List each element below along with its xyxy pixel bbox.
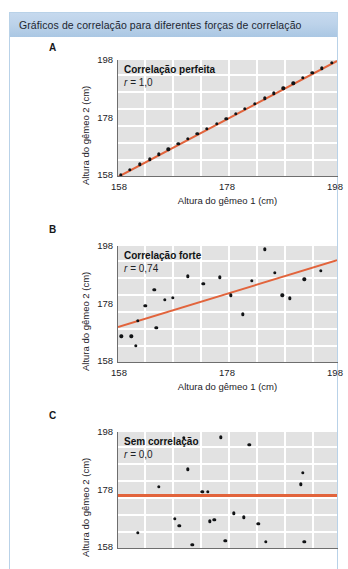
panel-a-r-value: = 1,0 bbox=[130, 77, 153, 88]
panel-b-x-tick-158: 158 bbox=[107, 367, 131, 378]
figure-title-band: Gráficos de correlação para diferentes f… bbox=[10, 13, 337, 37]
panel-a-x-tick-198: 198 bbox=[323, 181, 347, 192]
panel-b-letter: B bbox=[49, 224, 56, 235]
panel-b-x-tick-178: 178 bbox=[215, 367, 239, 378]
data-point bbox=[241, 312, 244, 315]
data-point bbox=[186, 467, 189, 470]
panel-a-x-tick-158: 158 bbox=[107, 181, 131, 192]
panel-c-letter: C bbox=[49, 410, 56, 421]
data-point bbox=[288, 296, 291, 299]
data-point bbox=[120, 335, 123, 338]
panel-a-y-axis-line bbox=[117, 60, 118, 177]
panel-a-letter: A bbox=[49, 42, 56, 53]
panel-b-plot-title: Correlação forte bbox=[124, 250, 201, 261]
data-point bbox=[129, 334, 132, 337]
panel-a-r-symbol: r bbox=[124, 77, 127, 88]
figure-title: Gráficos de correlação para diferentes f… bbox=[10, 19, 302, 31]
panel-b-r-annotation: r = 0,74 bbox=[124, 263, 158, 274]
panel-c-x-axis-line bbox=[117, 548, 338, 549]
data-point bbox=[229, 294, 232, 297]
panel-b-x-axis-title: Altura do gêmeo 1 (cm) bbox=[118, 381, 337, 392]
data-point bbox=[178, 524, 181, 527]
panel-b-x-tick-198: 198 bbox=[323, 367, 347, 378]
trendline bbox=[118, 494, 337, 496]
data-point bbox=[250, 279, 253, 282]
data-point bbox=[242, 516, 245, 519]
panel-a-plot-title: Correlação perfeita bbox=[124, 64, 215, 75]
data-point bbox=[319, 269, 322, 272]
panel-b-y-tick-158: 158 bbox=[89, 355, 113, 366]
data-point bbox=[136, 531, 139, 534]
panel-b: B Altura do gêmeo 2 (cm) 198 178 158 Cor… bbox=[10, 224, 337, 410]
data-point bbox=[191, 543, 194, 546]
panel-a-y-tick-198: 198 bbox=[89, 54, 113, 65]
data-point bbox=[263, 248, 266, 251]
data-point bbox=[232, 511, 235, 514]
panel-a-plot-area: Correlação perfeita r = 1,0 bbox=[118, 60, 337, 176]
data-point bbox=[202, 282, 205, 285]
data-point bbox=[213, 518, 216, 521]
panel-a-x-tick-178: 178 bbox=[215, 181, 239, 192]
panel-b-r-value: = 0,74 bbox=[130, 263, 158, 274]
panel-c-r-value: = 0,0 bbox=[130, 449, 153, 460]
data-point bbox=[218, 276, 221, 279]
panel-c-y-tick-198: 198 bbox=[89, 426, 113, 437]
data-point bbox=[273, 271, 276, 274]
panel-a-x-axis-line bbox=[117, 176, 338, 177]
data-point bbox=[152, 288, 155, 291]
data-point bbox=[163, 298, 166, 301]
correlation-figure: Gráficos de correlação para diferentes f… bbox=[0, 0, 348, 569]
data-point bbox=[206, 490, 209, 493]
data-point bbox=[157, 485, 160, 488]
panel-b-x-axis-line bbox=[117, 362, 338, 363]
data-point bbox=[134, 344, 137, 347]
panel-c-y-tick-178: 178 bbox=[89, 484, 113, 495]
data-point bbox=[155, 326, 158, 329]
panel-c-r-symbol: r bbox=[124, 449, 127, 460]
panel-b-y-tick-178: 178 bbox=[89, 298, 113, 309]
data-point bbox=[302, 540, 305, 543]
panel-c-plot-title: Sem correlação bbox=[124, 436, 199, 447]
panel-c-y-axis-line bbox=[117, 432, 118, 549]
panel-b-y-tick-198: 198 bbox=[89, 240, 113, 251]
data-point bbox=[201, 490, 204, 493]
data-point bbox=[301, 471, 304, 474]
data-point bbox=[281, 294, 284, 297]
data-point bbox=[186, 275, 189, 278]
data-point bbox=[299, 482, 302, 485]
data-point bbox=[219, 436, 222, 439]
data-point bbox=[173, 517, 176, 520]
panel-c: C Altura do gêmeo 2 (cm) 198 178 158 Sem… bbox=[10, 410, 337, 569]
panel-c-plot-area: Sem correlação r = 0,0 bbox=[118, 432, 337, 548]
panel-b-plot-area: Correlação forte r = 0,74 bbox=[118, 246, 337, 362]
panel-a-y-tick-178: 178 bbox=[89, 112, 113, 123]
panel-a-x-axis-title: Altura do gêmeo 1 (cm) bbox=[118, 195, 337, 206]
data-point bbox=[224, 539, 227, 542]
panel-a-r-annotation: r = 1,0 bbox=[124, 77, 153, 88]
panel-a: A Altura do gêmeo 2 (cm) 198 178 158 Cor… bbox=[10, 42, 337, 224]
data-point bbox=[144, 304, 147, 307]
data-point bbox=[171, 296, 174, 299]
panel-b-y-axis-line bbox=[117, 246, 118, 363]
panel-b-r-symbol: r bbox=[124, 263, 127, 274]
panel-a-y-tick-158: 158 bbox=[89, 169, 113, 180]
data-point bbox=[208, 520, 211, 523]
data-point bbox=[302, 278, 305, 281]
data-point bbox=[256, 522, 259, 525]
panel-c-y-tick-158: 158 bbox=[89, 541, 113, 552]
data-point bbox=[248, 443, 251, 446]
panel-c-r-annotation: r = 0,0 bbox=[124, 449, 153, 460]
data-point bbox=[264, 540, 267, 543]
